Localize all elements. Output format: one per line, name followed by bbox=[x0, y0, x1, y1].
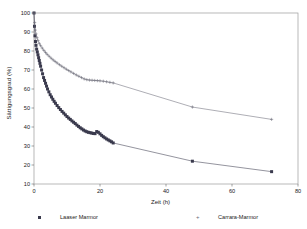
legend-label-carrara-marmor: Carrara-Marmor bbox=[218, 214, 258, 220]
data-point bbox=[40, 69, 43, 72]
data-point bbox=[72, 72, 75, 75]
series-line bbox=[34, 13, 272, 172]
data-point bbox=[44, 82, 47, 85]
plot-frame bbox=[34, 13, 298, 184]
x-axis-title: Zeit (h) bbox=[0, 199, 307, 205]
data-point bbox=[105, 80, 108, 83]
x-tick-label: 80 bbox=[295, 188, 301, 194]
data-point bbox=[42, 76, 45, 79]
data-point bbox=[33, 25, 36, 28]
chart-figure: Sättigungsgrad (%) 102030405060708090100… bbox=[0, 0, 307, 229]
data-point bbox=[98, 79, 101, 82]
series-0 bbox=[33, 12, 274, 174]
data-point bbox=[270, 118, 273, 121]
data-point bbox=[112, 81, 115, 84]
data-point bbox=[270, 170, 273, 173]
plot-area: 102030405060708090100020406080 bbox=[0, 0, 307, 229]
y-tick-label: 90 bbox=[24, 29, 30, 35]
y-tick-label: 80 bbox=[24, 48, 30, 54]
data-point bbox=[46, 88, 49, 91]
x-tick-label: 60 bbox=[229, 188, 235, 194]
chart-legend: Laaser Marmor + Carrara-Marmor bbox=[0, 212, 307, 226]
plus-marker-icon: + bbox=[196, 213, 218, 221]
data-point bbox=[35, 48, 38, 51]
y-tick-label: 100 bbox=[21, 10, 30, 16]
data-point bbox=[45, 85, 48, 88]
y-tick-label: 60 bbox=[24, 86, 30, 92]
data-point bbox=[191, 105, 194, 108]
y-tick-label: 40 bbox=[24, 124, 30, 130]
data-point bbox=[43, 79, 46, 82]
data-point bbox=[39, 65, 42, 68]
y-tick-label: 10 bbox=[24, 181, 30, 187]
legend-label-laaser-marmor: Laaser Marmor bbox=[60, 214, 98, 220]
data-point bbox=[36, 50, 39, 53]
x-tick-label: 20 bbox=[97, 188, 103, 194]
y-tick-label: 70 bbox=[24, 67, 30, 73]
data-point bbox=[62, 66, 65, 69]
data-point bbox=[108, 81, 111, 84]
data-point bbox=[85, 78, 88, 81]
data-point bbox=[34, 44, 37, 47]
data-point bbox=[112, 141, 115, 144]
data-point bbox=[191, 160, 194, 163]
legend-item-laaser-marmor: Laaser Marmor bbox=[38, 213, 98, 221]
series-line bbox=[34, 13, 272, 119]
y-tick-label: 30 bbox=[24, 143, 30, 149]
data-point bbox=[47, 90, 50, 93]
data-point bbox=[102, 80, 105, 83]
data-point bbox=[38, 59, 41, 62]
data-point bbox=[37, 56, 40, 59]
data-point bbox=[38, 62, 41, 65]
data-point bbox=[41, 72, 44, 75]
data-point bbox=[60, 65, 63, 68]
legend-item-carrara-marmor: + Carrara-Marmor bbox=[196, 213, 258, 221]
series-1 bbox=[32, 11, 273, 121]
square-marker-icon bbox=[38, 213, 60, 221]
y-tick-label: 20 bbox=[24, 162, 30, 168]
x-axis-title-label: Zeit (h) bbox=[151, 199, 170, 205]
data-point bbox=[33, 21, 36, 24]
data-point bbox=[36, 53, 39, 56]
x-tick-label: 0 bbox=[32, 188, 35, 194]
y-tick-label: 50 bbox=[24, 105, 30, 111]
x-tick-label: 40 bbox=[163, 188, 169, 194]
